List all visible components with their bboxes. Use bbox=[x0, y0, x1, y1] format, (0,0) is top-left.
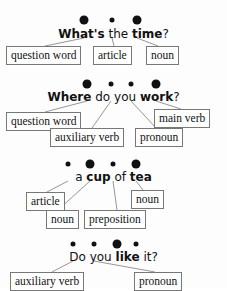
stress-dot-small-icon bbox=[71, 242, 76, 247]
sentence-text: What's the time? bbox=[0, 27, 227, 41]
word-class-label: preposition bbox=[84, 210, 146, 229]
stressed-word: Where bbox=[47, 90, 91, 104]
stress-dot-row bbox=[0, 77, 227, 91]
stress-dot-small-icon bbox=[111, 162, 116, 167]
stressed-word: work bbox=[140, 90, 173, 104]
stressed-word: cup bbox=[86, 170, 110, 184]
stress-dot-row bbox=[0, 237, 227, 251]
stress-dot-small-icon bbox=[129, 82, 134, 87]
sentence-text: Do you like it? bbox=[0, 250, 227, 264]
stress-dot-small-icon bbox=[110, 18, 115, 23]
word-class-label: auxiliary verb bbox=[10, 272, 84, 291]
word-class-label: main verb bbox=[154, 109, 210, 128]
unstressed-word: do bbox=[95, 90, 110, 104]
stressed-word: time bbox=[132, 27, 163, 41]
stress-dot-large-icon bbox=[132, 160, 141, 169]
leader-line bbox=[92, 101, 111, 128]
word-class-label: auxiliary verb bbox=[50, 128, 124, 147]
unstressed-word: you bbox=[114, 90, 136, 104]
stressed-word: tea bbox=[130, 170, 152, 184]
sentence-text: a cup of tea bbox=[0, 170, 227, 184]
stress-dot-large-icon bbox=[113, 240, 122, 249]
stress-dot-row bbox=[0, 157, 227, 171]
word-class-label: question word bbox=[6, 46, 81, 65]
stress-dot-small-icon bbox=[109, 82, 114, 87]
unstressed-word: you bbox=[90, 250, 112, 264]
unstressed-word: ? bbox=[173, 90, 179, 104]
unstressed-word: ? bbox=[162, 27, 168, 41]
stressed-word: like bbox=[116, 250, 140, 264]
leader-line bbox=[131, 101, 156, 128]
stress-dot-large-icon bbox=[152, 80, 161, 89]
unstressed-word: Do bbox=[69, 250, 86, 264]
stress-dot-large-icon bbox=[133, 16, 142, 25]
unstressed-word: the bbox=[108, 27, 128, 41]
unstressed-word: of bbox=[114, 170, 126, 184]
sentence-text: Where do you work? bbox=[0, 90, 227, 104]
stress-dot-small-icon bbox=[66, 162, 71, 167]
stress-dot-large-icon bbox=[86, 160, 95, 169]
unstressed-word: a bbox=[75, 170, 82, 184]
word-class-label: noun bbox=[46, 210, 79, 229]
word-class-label: pronoun bbox=[134, 272, 182, 291]
stress-dot-row bbox=[0, 13, 227, 27]
stress-dot-small-icon bbox=[134, 242, 139, 247]
word-class-label: noun bbox=[146, 46, 179, 65]
word-class-label: article bbox=[93, 46, 132, 65]
stress-dot-large-icon bbox=[80, 16, 89, 25]
stress-dot-large-icon bbox=[83, 80, 92, 89]
unstressed-word: ? bbox=[151, 250, 157, 264]
word-class-label: article bbox=[26, 192, 65, 211]
stressed-word: What's bbox=[58, 27, 104, 41]
word-class-label: noun bbox=[131, 190, 164, 209]
stress-dot-small-icon bbox=[92, 242, 97, 247]
word-class-label: pronoun bbox=[135, 128, 183, 147]
leader-line bbox=[113, 181, 117, 210]
